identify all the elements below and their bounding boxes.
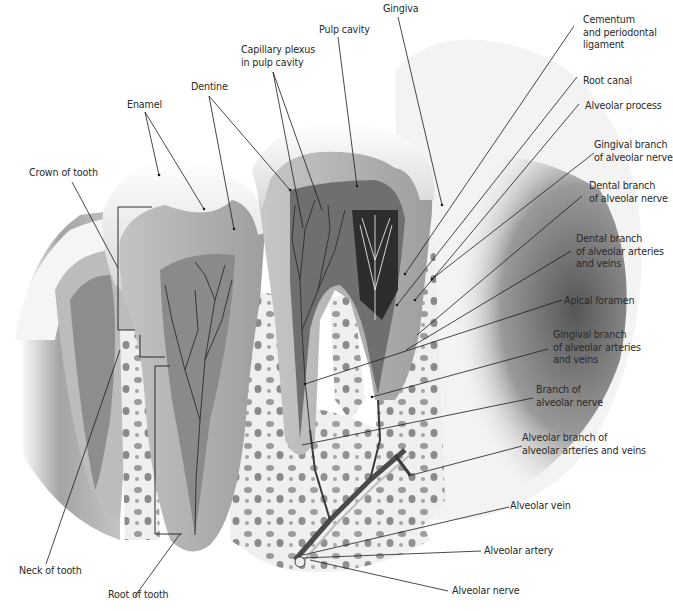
label-dentine: Dentine [191,81,228,94]
label-branch-alveolar-nerve: Branch of alveolar nerve [536,384,603,409]
label-apical-foramen: Apical foramen [564,295,635,308]
label-dental-branch-nerve: Dental branch of alveolar nerve [589,180,668,205]
label-gingival-branch-arteries: Gingival branch of alveolar arteries and… [553,329,641,367]
label-alveolar-artery: Alveolar artery [484,545,553,558]
label-alveolar-branch-arteries: Alveolar branch of alveolar arteries and… [522,432,646,457]
label-alveolar-nerve: Alveolar nerve [452,585,520,598]
label-gingival-branch-nerve: Gingival branch of alveolar nerve [594,139,673,164]
label-crown-of-tooth: Crown of tooth [29,167,98,180]
label-root-of-tooth: Root of tooth [108,589,168,602]
label-root-canal: Root canal [583,75,632,88]
label-gingiva: Gingiva [383,3,418,16]
label-capillary-plexus: Capillary plexus in pulp cavity [241,44,315,69]
label-dental-branch-arteries: Dental branch of alveolar arteries and v… [576,233,664,271]
label-alveolar-vein: Alveolar vein [510,500,571,513]
label-enamel: Enamel [127,99,162,112]
label-pulp-cavity: Pulp cavity [319,24,370,37]
label-cementum: Cementum and periodontal ligament [583,14,657,52]
label-alveolar-process: Alveolar process [585,100,662,113]
label-neck-of-tooth: Neck of tooth [19,565,82,578]
